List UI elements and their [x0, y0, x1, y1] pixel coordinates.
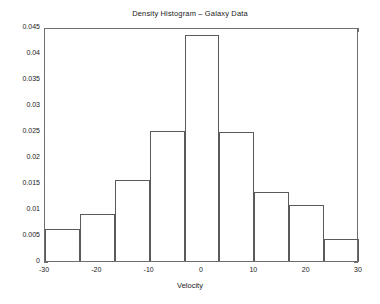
histogram-bar	[289, 205, 324, 261]
y-tick-label: 0	[0, 257, 45, 264]
x-tick-label: -20	[76, 266, 116, 273]
histogram-bar	[150, 131, 185, 261]
x-tick-label: 30	[338, 266, 378, 273]
histogram-bar	[45, 229, 80, 261]
y-tick-label: 0.02	[0, 153, 45, 160]
histogram-bar	[254, 192, 289, 261]
y-tick-label: 0.045	[0, 23, 45, 30]
y-tick-label: 0.01	[0, 205, 45, 212]
x-tick-label: 20	[286, 266, 326, 273]
y-tick-label: 0.035	[0, 75, 45, 82]
histogram-bar	[219, 132, 254, 261]
histogram-bar	[185, 35, 220, 261]
x-tick-mark-top	[358, 28, 359, 32]
x-tick-label: -30	[24, 266, 64, 273]
histogram-bar	[115, 180, 150, 261]
chart-title: Density Histogram – Galaxy Data	[0, 9, 380, 18]
histogram-bar	[80, 214, 115, 261]
x-tick-label: -10	[129, 266, 169, 273]
histogram-bars	[45, 29, 357, 261]
histogram-bar	[324, 239, 359, 261]
plot-area	[44, 28, 358, 262]
x-tick-label: 0	[181, 266, 221, 273]
x-tick-label: 10	[233, 266, 273, 273]
y-tick-label: 0.025	[0, 127, 45, 134]
y-tick-label: 0.03	[0, 101, 45, 108]
y-tick-label: 0.005	[0, 231, 45, 238]
chart-figure: Density Histogram – Galaxy Data 00.0050.…	[0, 0, 380, 304]
y-tick-label: 0.04	[0, 49, 45, 56]
y-tick-mark-right	[354, 262, 358, 263]
y-tick-label: 0.015	[0, 179, 45, 186]
x-axis-label: Velocity	[0, 281, 380, 290]
